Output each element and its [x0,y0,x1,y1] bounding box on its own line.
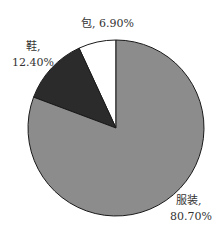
label-clothing-name: 服装, [176,194,202,207]
label-bag: 包, 6.90% [81,17,134,30]
pie-chart: 包, 6.90% 鞋, 12.40% 服装, 80.70% [0,0,221,236]
label-clothing-value: 80.70% [170,210,212,223]
label-shoes-name: 鞋, [26,39,41,53]
label-shoes-value: 12.40% [12,56,54,69]
